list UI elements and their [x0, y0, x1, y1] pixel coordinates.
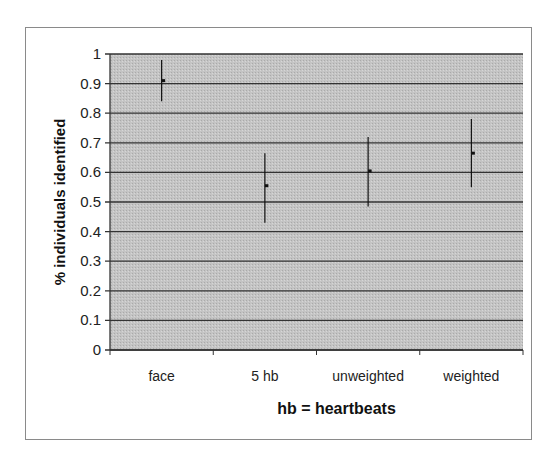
y-tick-label: 1: [93, 45, 101, 62]
y-tick-label: 0.2: [80, 282, 101, 299]
y-tick-label: 0.1: [80, 311, 101, 328]
y-tick-label: 0.3: [80, 252, 101, 269]
data-point: [368, 169, 372, 172]
chart: 00.10.20.30.40.50.60.70.80.91face5 hbunw…: [0, 0, 559, 459]
y-axis-title: % individuals identified: [51, 119, 68, 286]
y-tick-label: 0.6: [80, 163, 101, 180]
y-tick-label: 0.5: [80, 193, 101, 210]
x-tick-label: 5 hb: [251, 368, 278, 384]
data-point: [471, 152, 475, 155]
y-tick-label: 0.7: [80, 134, 101, 151]
x-tick-label: unweighted: [332, 368, 404, 384]
y-tick-label: 0: [93, 341, 101, 358]
x-tick-label: weighted: [442, 368, 499, 384]
y-tick-label: 0.4: [80, 223, 101, 240]
x-axis-title: hb = heartbeats: [277, 400, 396, 417]
x-tick-label: face: [148, 368, 175, 384]
y-tick-label: 0.9: [80, 75, 101, 92]
data-point: [265, 184, 269, 187]
y-tick-label: 0.8: [80, 104, 101, 121]
data-point: [162, 79, 166, 82]
